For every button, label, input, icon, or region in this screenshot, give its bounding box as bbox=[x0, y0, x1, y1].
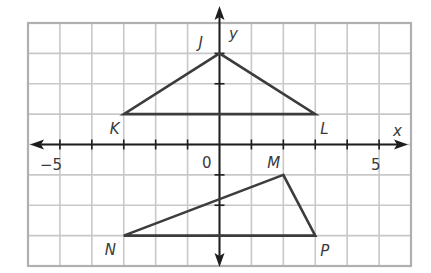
x-tick-label-5: 5 bbox=[371, 156, 381, 174]
vertex-label-k: K bbox=[110, 120, 121, 138]
y-axis-label: y bbox=[228, 25, 239, 43]
x-axis-label: x bbox=[392, 122, 402, 140]
x-tick-label-neg5: −5 bbox=[40, 156, 62, 174]
vertex-label-n: N bbox=[105, 241, 116, 259]
vertex-label-l: L bbox=[320, 120, 328, 138]
coordinate-plane: x y 0 −5 5 JKLMNP bbox=[0, 0, 431, 273]
vertex-label-m: M bbox=[267, 154, 280, 172]
axes bbox=[30, 6, 408, 267]
vertex-label-p: P bbox=[320, 242, 330, 260]
vertex-label-j: J bbox=[196, 34, 203, 52]
origin-label: 0 bbox=[202, 154, 212, 172]
